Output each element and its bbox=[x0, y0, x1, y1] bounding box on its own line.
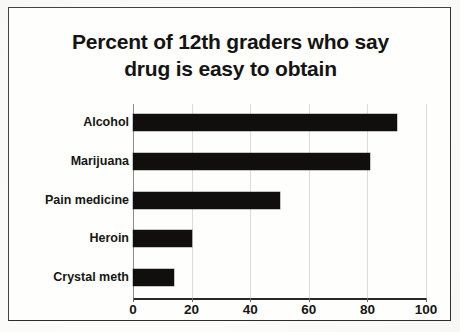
bar bbox=[133, 230, 192, 247]
x-tick-label: 20 bbox=[184, 302, 199, 317]
bar-row bbox=[133, 143, 426, 182]
x-tick-label: 100 bbox=[415, 302, 438, 317]
x-axis-tick-labels: 020406080100 bbox=[133, 302, 426, 326]
x-tick-label: 60 bbox=[301, 302, 316, 317]
x-axis-line bbox=[133, 298, 427, 300]
chart-border-frame: Percent of 12th graders who say drug is … bbox=[8, 7, 451, 321]
category-label: Heroin bbox=[17, 231, 129, 245]
x-tick-label: 0 bbox=[129, 302, 137, 317]
bar-row bbox=[133, 220, 426, 259]
bar-row bbox=[133, 259, 426, 298]
bar bbox=[133, 153, 370, 170]
chart-title: Percent of 12th graders who say drug is … bbox=[23, 28, 438, 82]
category-label: Crystal meth bbox=[17, 270, 129, 284]
scanned-page: Percent of 12th graders who say drug is … bbox=[0, 0, 460, 332]
bar bbox=[133, 269, 174, 286]
bar-row bbox=[133, 182, 426, 221]
x-tick-mark bbox=[426, 298, 427, 302]
x-tick-mark bbox=[309, 298, 310, 302]
category-label: Alcohol bbox=[17, 115, 129, 129]
chart-title-line-2: drug is easy to obtain bbox=[23, 55, 438, 82]
x-tick-label: 40 bbox=[243, 302, 258, 317]
bar bbox=[133, 114, 397, 131]
x-tick-mark bbox=[250, 298, 251, 302]
bar bbox=[133, 192, 280, 209]
gridline bbox=[426, 104, 427, 298]
x-tick-mark bbox=[133, 298, 134, 302]
chart-title-line-1: Percent of 12th graders who say bbox=[72, 30, 389, 53]
category-axis-labels: AlcoholMarijuanaPain medicineHeroinCryst… bbox=[15, 104, 129, 298]
category-label: Marijuana bbox=[17, 154, 129, 168]
category-label: Pain medicine bbox=[17, 193, 129, 207]
x-tick-mark bbox=[192, 298, 193, 302]
plot-area bbox=[133, 104, 426, 298]
bar-row bbox=[133, 104, 426, 143]
x-tick-mark bbox=[367, 298, 368, 302]
x-tick-label: 80 bbox=[360, 302, 375, 317]
